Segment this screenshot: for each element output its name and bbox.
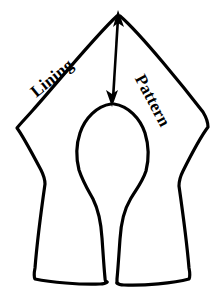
pattern-diagram-figure: Lining Pattern <box>0 0 222 301</box>
diagram-canvas <box>0 0 222 301</box>
